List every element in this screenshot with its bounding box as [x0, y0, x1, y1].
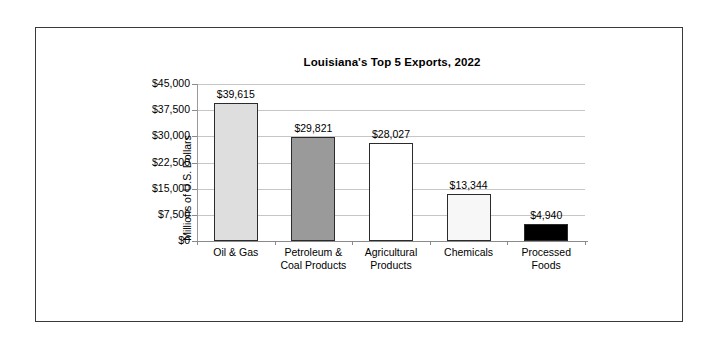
chart-title: Louisiana's Top 5 Exports, 2022: [197, 56, 587, 68]
bar[interactable]: [291, 137, 335, 241]
bar-value-label: $28,027: [355, 128, 427, 140]
bar[interactable]: [447, 194, 491, 241]
y-axis-tick-label: $22,500: [128, 156, 190, 168]
chart-canvas: Louisiana's Top 5 Exports, 2022 Millions…: [0, 0, 714, 353]
bar[interactable]: [369, 143, 413, 241]
y-axis-line: [197, 84, 198, 242]
bar-value-label: $29,821: [277, 122, 349, 134]
x-axis-label-line: Processed: [499, 246, 593, 259]
x-axis-category-label: ProcessedFoods: [499, 246, 593, 271]
plot-area: $39,615$29,821$28,027$13,344$4,940: [197, 84, 585, 241]
bar-value-label: $39,615: [200, 88, 272, 100]
x-axis-label-line: Products: [344, 259, 438, 272]
x-axis-tick: [430, 241, 431, 245]
x-axis-tick: [352, 241, 353, 245]
bar[interactable]: [214, 103, 258, 241]
x-axis-tick: [507, 241, 508, 245]
y-axis-tick-label: $15,000: [128, 182, 190, 194]
y-axis-tick-label: $0: [128, 234, 190, 246]
y-axis-tick-label: $7,500: [128, 208, 190, 220]
y-axis-tick-labels: $45,000$37,500$30,000$22,500$15,000$7,50…: [128, 84, 190, 241]
x-axis-line: [192, 241, 588, 242]
bar-value-label: $4,940: [510, 209, 582, 221]
x-axis-tick: [197, 241, 198, 245]
x-axis-tick: [585, 241, 586, 245]
y-axis-tick-label: $30,000: [128, 129, 190, 141]
y-axis-tick-label: $37,500: [128, 103, 190, 115]
x-axis-tick: [275, 241, 276, 245]
x-axis-label-line: Foods: [499, 259, 593, 272]
bar-value-label: $13,344: [433, 179, 505, 191]
bar[interactable]: [524, 224, 568, 241]
y-axis-tick-label: $45,000: [128, 77, 190, 89]
gridline: [197, 84, 585, 85]
